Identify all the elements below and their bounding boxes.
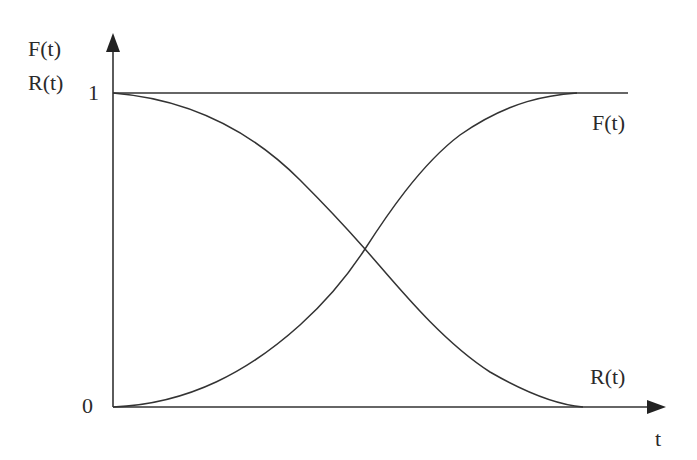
- x-axis-label: t: [655, 428, 661, 450]
- reliability-chart: [0, 0, 697, 460]
- curve-label-r: R(t): [590, 366, 625, 388]
- tick-label-zero: 0: [82, 395, 93, 417]
- r-curve: [113, 93, 583, 407]
- f-curve: [113, 93, 577, 407]
- y-axis-label-f: F(t): [28, 38, 61, 60]
- tick-label-one: 1: [88, 82, 99, 104]
- y-axis-arrow-icon: [106, 33, 120, 52]
- curve-label-f: F(t): [592, 112, 625, 134]
- y-axis-label-r: R(t): [28, 72, 63, 94]
- x-axis-arrow-icon: [647, 400, 666, 414]
